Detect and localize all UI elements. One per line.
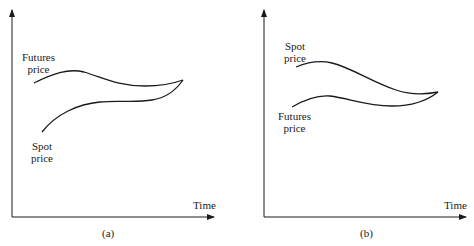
panel-a-upper-label: Futures price	[22, 51, 55, 75]
label-line: price	[31, 152, 53, 164]
panel-a-x-axis-label: Time	[193, 199, 216, 211]
label-line: Futures	[22, 51, 55, 63]
panel-b-lower-label: Futures price	[278, 110, 311, 134]
label-line: price	[284, 52, 306, 64]
panel-b-caption: (b)	[360, 227, 373, 239]
panel-b-spot-curve	[296, 62, 438, 94]
panel-a-axes	[12, 10, 214, 217]
panel-b-upper-label: Spot price	[284, 40, 306, 64]
label-line: Spot	[31, 140, 53, 152]
label-line: Spot	[284, 40, 306, 52]
panel-a-lower-label: Spot price	[31, 140, 53, 164]
panel-a-caption: (a)	[102, 227, 114, 239]
diagram-canvas	[0, 0, 474, 246]
panel-a-spot-curve	[42, 80, 183, 132]
label-line: price	[278, 122, 311, 134]
panel-b-x-axis-label: Time	[444, 199, 467, 211]
label-line: Futures	[278, 110, 311, 122]
panel-a-futures-curve	[34, 71, 183, 86]
label-line: price	[22, 63, 55, 75]
